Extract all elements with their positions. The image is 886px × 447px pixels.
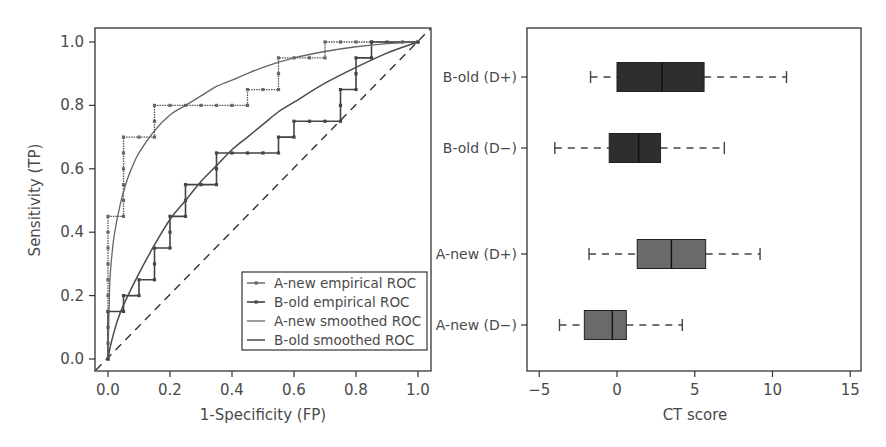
- x-tick-label: 15: [841, 381, 860, 399]
- legend-label: B-old empirical ROC: [274, 294, 410, 310]
- data-point-marker: [277, 136, 280, 139]
- boxplot-chart: −5051015 B-old (D+)B-old (D−)A-new (D+)A…: [436, 28, 861, 424]
- category-label: B-old (D−): [443, 140, 517, 156]
- x-tick-label: 5: [690, 381, 700, 399]
- data-point-marker: [230, 104, 233, 107]
- x-tick-label: 1.0: [406, 381, 430, 399]
- data-point-marker: [354, 56, 357, 59]
- data-point-marker: [246, 151, 249, 154]
- data-point-marker: [339, 120, 342, 123]
- data-point-marker: [354, 88, 357, 91]
- data-point-marker: [277, 72, 280, 75]
- x-tick-label: −5: [528, 381, 550, 399]
- data-point-marker: [184, 183, 187, 186]
- data-point-marker: [137, 136, 140, 139]
- category-label: A-new (D+): [436, 246, 517, 262]
- iqr-box: [617, 63, 704, 92]
- box-a-newd+: A-new (D+): [436, 240, 760, 269]
- data-point-marker: [199, 104, 202, 107]
- legend-marker: [255, 281, 258, 284]
- y-tick-label: 0.2: [60, 287, 84, 305]
- data-point-marker: [277, 56, 280, 59]
- boxplot-x-axis-title: CT score: [663, 406, 728, 424]
- legend-label: A-new smoothed ROC: [274, 313, 421, 329]
- legend-label: A-new empirical ROC: [274, 275, 416, 291]
- data-point-marker: [168, 104, 171, 107]
- data-point-marker: [354, 40, 357, 43]
- x-tick-label: 0.8: [344, 381, 368, 399]
- data-point-marker: [153, 136, 156, 139]
- data-point-marker: [323, 56, 326, 59]
- roc-x-axis: 0.00.20.40.60.81.0: [96, 371, 430, 399]
- data-point-marker: [339, 40, 342, 43]
- data-point-marker: [184, 215, 187, 218]
- iqr-box: [609, 134, 660, 163]
- data-point-marker: [261, 88, 264, 91]
- boxplot-boxes: B-old (D+)B-old (D−)A-new (D+)A-new (D−): [436, 63, 787, 340]
- data-point-marker: [106, 215, 109, 218]
- box-b-oldd−: B-old (D−): [443, 134, 724, 163]
- data-point-marker: [308, 56, 311, 59]
- data-point-marker: [168, 246, 171, 249]
- data-point-marker: [106, 246, 109, 249]
- data-point-marker: [153, 278, 156, 281]
- data-point-marker: [122, 167, 125, 170]
- data-point-marker: [215, 183, 218, 186]
- data-point-marker: [277, 88, 280, 91]
- roc-x-axis-title: 1-Specificity (FP): [200, 406, 326, 424]
- iqr-box: [584, 311, 626, 340]
- x-tick-label: 0.6: [282, 381, 306, 399]
- y-tick-label: 0.0: [60, 350, 84, 368]
- category-label: B-old (D+): [443, 69, 517, 85]
- data-point-marker: [354, 72, 357, 75]
- x-tick-label: 0: [612, 381, 622, 399]
- data-point-marker: [153, 120, 156, 123]
- boxplot-x-axis: −5051015: [528, 371, 860, 399]
- roc-y-axis-title: Sensitivity (TP): [26, 144, 44, 257]
- data-point-marker: [137, 294, 140, 297]
- y-tick-label: 0.6: [60, 160, 84, 178]
- data-point-marker: [122, 294, 125, 297]
- data-point-marker: [277, 151, 280, 154]
- y-tick-label: 0.8: [60, 96, 84, 114]
- data-point-marker: [308, 120, 311, 123]
- data-point-marker: [122, 199, 125, 202]
- data-point-marker: [122, 310, 125, 313]
- category-label: A-new (D−): [436, 317, 517, 333]
- legend-label: B-old smoothed ROC: [274, 332, 414, 348]
- data-point-marker: [153, 262, 156, 265]
- legend-marker: [255, 300, 258, 303]
- y-tick-label: 1.0: [60, 33, 84, 51]
- data-point-marker: [106, 231, 109, 234]
- data-point-marker: [215, 104, 218, 107]
- data-point-marker: [153, 104, 156, 107]
- data-point-marker: [246, 104, 249, 107]
- x-tick-label: 0.4: [220, 381, 244, 399]
- data-point-marker: [168, 231, 171, 234]
- figure: 0.00.20.40.60.81.0 0.00.20.40.60.81.0 1-…: [0, 0, 886, 447]
- data-point-marker: [323, 120, 326, 123]
- roc-chart: 0.00.20.40.60.81.0 0.00.20.40.60.81.0 1-…: [26, 28, 431, 424]
- data-point-marker: [246, 88, 249, 91]
- y-tick-label: 0.4: [60, 223, 84, 241]
- data-point-marker: [215, 151, 218, 154]
- data-point-marker: [370, 40, 373, 43]
- box-b-oldd+: B-old (D+): [443, 63, 787, 92]
- data-point-marker: [339, 88, 342, 91]
- data-point-marker: [323, 40, 326, 43]
- data-point-marker: [261, 151, 264, 154]
- data-point-marker: [122, 151, 125, 154]
- data-point-marker: [122, 136, 125, 139]
- data-point-marker: [106, 262, 109, 265]
- data-point-marker: [339, 104, 342, 107]
- data-point-marker: [106, 278, 109, 281]
- roc-y-axis: 0.00.20.40.60.81.0: [60, 33, 95, 368]
- data-point-marker: [292, 120, 295, 123]
- x-tick-label: 0.0: [96, 381, 120, 399]
- data-point-marker: [122, 215, 125, 218]
- roc-legend: A-new empirical ROCB-old empirical ROCA-…: [242, 272, 427, 350]
- x-tick-label: 10: [763, 381, 782, 399]
- x-tick-label: 0.2: [158, 381, 182, 399]
- data-point-marker: [137, 278, 140, 281]
- data-point-marker: [292, 136, 295, 139]
